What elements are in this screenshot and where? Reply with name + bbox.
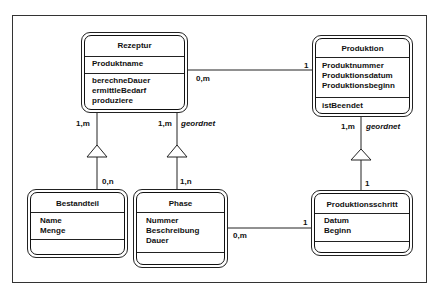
divider <box>137 212 224 213</box>
attribute-list: Nummer Beschreibung Dauer <box>146 216 220 246</box>
attribute: Beschreibung <box>146 226 220 236</box>
attribute: Name <box>40 216 120 226</box>
divider <box>315 241 409 242</box>
attribute: Nummer <box>146 216 220 226</box>
multiplicity-label: 0,m <box>233 231 247 240</box>
attribute: Produktnummer <box>322 61 405 71</box>
divider <box>31 239 124 240</box>
class-rezeptur[interactable]: Rezeptur Produktname berechneDauer ermit… <box>81 32 188 113</box>
class-name: Bestandteil <box>31 199 124 208</box>
operation: ermittleBedarf <box>92 86 180 96</box>
multiplicity-label: 1,n <box>180 177 192 186</box>
multiplicity-label: 1,m <box>341 122 355 131</box>
multiplicity-label: 1,m <box>76 119 90 128</box>
divider <box>315 213 409 214</box>
multiplicity-label: 1 <box>303 218 307 227</box>
class-phase[interactable]: Phase Nummer Beschreibung Dauer <box>133 189 228 268</box>
attribute-list: Datum Beginn <box>324 216 405 236</box>
attribute-list: Produktnummer Produktionsdatum Produktio… <box>322 61 405 91</box>
constraint-label: geordnet <box>181 119 215 128</box>
attribute: Datum <box>324 216 405 226</box>
class-name: Produktion <box>316 44 409 53</box>
operation: produziere <box>92 96 180 106</box>
divider <box>316 57 409 58</box>
operation: istBeendet <box>322 101 405 111</box>
divider <box>31 212 124 213</box>
attribute-list: Name Menge <box>40 216 120 236</box>
attribute-list: Produktname <box>92 59 180 69</box>
multiplicity-label: 1 <box>304 61 308 70</box>
operation-list: istBeendet <box>322 101 405 111</box>
class-produktion[interactable]: Produktion Produktnummer Produktionsdatu… <box>312 35 413 117</box>
attribute: Menge <box>40 226 120 236</box>
operation: berechneDauer <box>92 76 180 86</box>
class-name: Phase <box>137 199 224 208</box>
attribute: Beginn <box>324 226 405 236</box>
attribute: Produktionsdatum <box>322 71 405 81</box>
divider <box>316 97 409 98</box>
aggregation-triangle-phase <box>167 145 187 157</box>
attribute: Dauer <box>146 236 220 246</box>
attribute: Produktionsbeginn <box>322 81 405 91</box>
class-name: Rezeptur <box>85 41 184 50</box>
multiplicity-label: 0,n <box>102 177 114 186</box>
divider <box>85 73 184 74</box>
class-bestandteil[interactable]: Bestandteil Name Menge <box>27 189 128 258</box>
multiplicity-label: 0,m <box>196 74 210 83</box>
aggregation-triangle-schritt <box>351 149 371 160</box>
aggregation-triangle-bestandteil <box>87 145 107 157</box>
multiplicity-label: 1 <box>365 179 369 188</box>
divider <box>137 252 224 253</box>
class-produktionsschritt[interactable]: Produktionsschritt Datum Beginn <box>311 190 413 256</box>
class-name: Produktionsschritt <box>315 200 409 209</box>
operation-list: berechneDauer ermittleBedarf produziere <box>92 76 180 106</box>
attribute: Produktname <box>92 59 180 69</box>
constraint-label: geordnet <box>366 122 400 131</box>
divider <box>85 56 184 57</box>
multiplicity-label: 1,m <box>158 119 172 128</box>
